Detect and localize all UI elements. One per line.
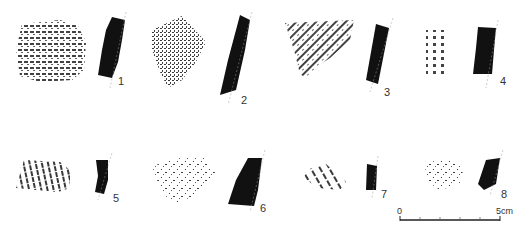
sherd-6-exterior [152,158,216,204]
sherd-number-4: 4 [500,75,506,87]
sherd-plate [0,0,521,233]
sherd-6 [152,150,265,212]
sherd-8-profile [478,158,500,190]
sherd-8-exterior [424,160,464,190]
sherd-2 [152,12,252,105]
sherd-3-profile [366,24,389,84]
sherd-3-exterior [285,20,354,78]
sherd-number-1: 1 [118,75,124,87]
sherd-4-exterior [426,30,448,74]
sherd-7 [304,156,378,198]
sherd-1 [16,12,126,88]
scale-end-label: 5cm [496,206,513,216]
sherd-5-exterior [16,160,70,192]
sherd-7-exterior [304,164,346,190]
scale-start-label: 0 [397,206,402,216]
sherd-number-7: 7 [381,188,387,200]
sherd-1-profile [98,17,125,78]
sherd-4 [426,20,498,88]
sherd-3 [285,18,393,92]
sherd-1-exterior [16,20,86,82]
sherd-5 [16,153,112,200]
sherd-number-6: 6 [260,202,266,214]
sherd-number-8: 8 [501,188,507,200]
sherd-number-5: 5 [113,192,119,204]
sherd-number-2: 2 [241,94,247,106]
sherd-7-profile [366,164,377,190]
sherd-6-profile [228,158,262,206]
sherd-4-profile [473,27,496,74]
sherd-2-exterior [152,16,206,88]
sherd-8 [424,150,503,196]
sherd-2-profile [220,15,250,95]
scale-bar [400,216,500,221]
sherd-number-3: 3 [384,86,390,98]
